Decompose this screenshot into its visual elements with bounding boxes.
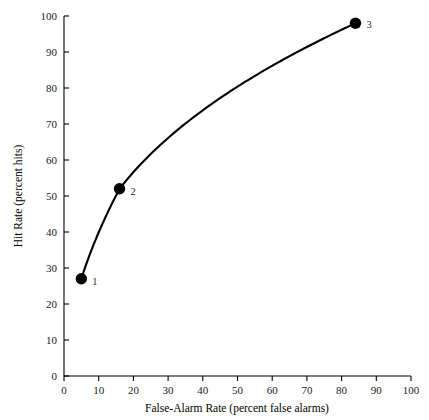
x-tick-label: 10 bbox=[93, 384, 105, 396]
y-tick-label: 70 bbox=[46, 118, 58, 130]
x-axis-title: False-Alarm Rate (percent false alarms) bbox=[145, 402, 329, 415]
x-tick-label: 90 bbox=[371, 384, 383, 396]
data-point-label: 1 bbox=[92, 276, 97, 287]
y-tick-label: 50 bbox=[46, 190, 58, 202]
y-tick-label: 0 bbox=[52, 370, 58, 382]
y-axis-title: Hit Rate (percent hits) bbox=[12, 145, 25, 248]
y-tick-label: 10 bbox=[46, 334, 58, 346]
y-tick-label: 80 bbox=[46, 82, 58, 94]
x-tick-label: 40 bbox=[197, 384, 209, 396]
x-tick-label: 20 bbox=[128, 384, 140, 396]
y-tick-label: 40 bbox=[46, 226, 58, 238]
data-point-label: 3 bbox=[366, 19, 371, 30]
data-point-marker bbox=[114, 183, 125, 194]
x-tick-label: 0 bbox=[61, 384, 67, 396]
data-point-label: 2 bbox=[131, 186, 136, 197]
roc-chart-svg: 0102030405060708090100 01020304050607080… bbox=[0, 0, 429, 420]
x-tick-label: 70 bbox=[301, 384, 313, 396]
roc-chart-figure: 0102030405060708090100 01020304050607080… bbox=[0, 0, 429, 420]
x-tick-label: 50 bbox=[232, 384, 244, 396]
data-point-marker bbox=[350, 18, 361, 29]
x-tick-label: 80 bbox=[336, 384, 348, 396]
y-tick-label: 100 bbox=[41, 10, 58, 22]
data-point-marker bbox=[76, 273, 87, 284]
y-tick-label: 30 bbox=[46, 262, 58, 274]
x-tick-label: 30 bbox=[163, 384, 175, 396]
y-tick-label: 90 bbox=[46, 46, 58, 58]
x-tick-label: 60 bbox=[267, 384, 279, 396]
y-tick-label: 60 bbox=[46, 154, 58, 166]
x-tick-label: 100 bbox=[403, 384, 420, 396]
y-tick-label: 20 bbox=[46, 298, 58, 310]
